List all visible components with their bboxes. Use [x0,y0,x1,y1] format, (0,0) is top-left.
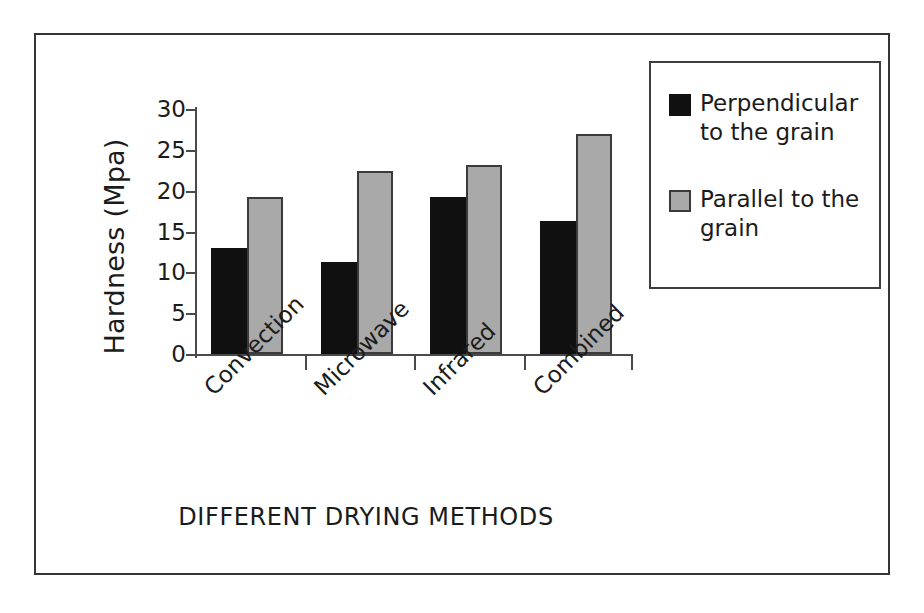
y-tick-mark [186,191,195,193]
y-tick-label: 15 [157,219,186,245]
legend-swatch-icon-parallel [669,190,691,212]
x-axis-separator-tick [524,354,526,370]
legend-label-parallel: Parallel to the grain [700,185,859,243]
y-tick-mark [186,354,195,356]
x-axis-separator-tick [414,354,416,370]
legend-swatch-icon-perpendicular [669,94,691,116]
chart-page: Hardness (Mpa) 051015202530 ConvectionMi… [0,0,924,613]
bar [430,197,466,354]
y-axis-title: Hardness (Mpa) [99,107,130,387]
y-tick-label: 20 [157,178,186,204]
y-tick-mark [186,272,195,274]
y-axis-line [195,107,197,358]
legend-label-perpendicular: Perpendicular to the grain [700,89,858,147]
y-tick-mark [186,313,195,315]
figure-frame: Hardness (Mpa) 051015202530 ConvectionMi… [34,33,890,575]
legend: Perpendicular to the grain Parallel to t… [649,61,881,289]
y-tick-label: 5 [171,300,186,326]
x-axis-title: DIFFERENT DRYING METHODS [36,503,696,531]
y-tick-label: 0 [171,341,186,367]
x-axis-separator-tick [305,354,307,370]
y-tick-mark [186,150,195,152]
bar [540,221,576,354]
y-tick-mark [186,232,195,234]
plot-area: 051015202530 [195,109,633,354]
y-tick-label: 30 [157,96,186,122]
y-tick-label: 10 [157,259,186,285]
y-tick-mark [186,109,195,111]
y-tick-label: 25 [157,137,186,163]
x-axis-end-cap [631,354,633,370]
legend-entry-perpendicular: Perpendicular to the grain [669,89,869,147]
legend-entry-parallel: Parallel to the grain [669,185,869,243]
